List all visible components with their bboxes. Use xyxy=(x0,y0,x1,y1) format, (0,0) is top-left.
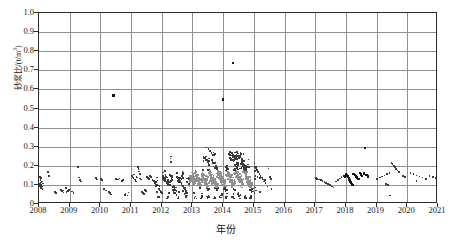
data-point xyxy=(157,196,159,198)
data-point xyxy=(208,196,210,198)
y-axis-tick-label: 0.2 xyxy=(23,161,34,170)
data-point xyxy=(47,171,49,173)
data-point xyxy=(267,186,269,188)
data-point xyxy=(216,168,218,170)
data-point xyxy=(226,189,228,191)
data-point xyxy=(208,165,210,167)
gridline-vertical xyxy=(223,13,224,202)
data-point xyxy=(240,194,242,196)
data-point xyxy=(256,169,258,171)
data-point xyxy=(213,178,215,180)
data-point xyxy=(216,183,218,185)
data-point xyxy=(175,187,177,189)
data-point xyxy=(222,98,224,100)
data-point xyxy=(416,175,418,177)
data-point xyxy=(196,174,198,176)
y-axis-title-exponent: 3 xyxy=(12,48,18,51)
data-point xyxy=(333,187,335,189)
y-axis-title-main: 砂浆比/(t/m xyxy=(14,51,23,91)
y-axis-tick-label: 0.4 xyxy=(23,123,34,132)
data-point xyxy=(243,153,245,155)
data-point xyxy=(96,179,98,181)
data-point xyxy=(212,154,214,156)
data-point xyxy=(416,180,418,182)
data-point xyxy=(206,179,208,181)
y-axis-tick-label: 0.1 xyxy=(23,180,34,189)
data-point xyxy=(234,165,236,167)
data-point xyxy=(201,185,203,187)
data-point xyxy=(202,169,204,171)
data-point xyxy=(233,193,235,195)
data-point xyxy=(166,198,168,200)
x-axis-tick-label: 2014 xyxy=(207,206,237,215)
data-point xyxy=(119,178,121,180)
data-point xyxy=(221,194,223,196)
data-point xyxy=(169,184,171,186)
data-point xyxy=(234,179,236,181)
data-point xyxy=(254,170,256,172)
x-axis-tick-label: 2021 xyxy=(422,206,451,215)
data-point xyxy=(241,167,243,169)
data-point xyxy=(398,171,400,173)
data-point xyxy=(185,195,187,197)
x-axis-tick-label: 2019 xyxy=(361,206,391,215)
data-point xyxy=(200,198,202,200)
data-point xyxy=(180,182,182,184)
data-point xyxy=(184,193,186,195)
data-point xyxy=(194,197,196,199)
data-point xyxy=(203,156,205,158)
data-point xyxy=(251,191,253,193)
data-point xyxy=(238,157,240,159)
gridline-vertical xyxy=(254,13,255,202)
data-point xyxy=(232,156,234,158)
y-axis-tick xyxy=(34,146,38,147)
data-point xyxy=(135,181,137,183)
data-point xyxy=(410,172,412,174)
data-point xyxy=(211,159,213,161)
data-point xyxy=(226,169,228,171)
y-axis-tick-label: 0.3 xyxy=(23,142,34,151)
data-point xyxy=(239,168,241,170)
x-axis-tick-label: 2008 xyxy=(23,206,53,215)
data-point xyxy=(257,176,259,178)
data-point xyxy=(389,195,391,197)
y-axis-tick-label: 0.5 xyxy=(23,104,34,113)
data-point xyxy=(225,190,227,192)
data-point xyxy=(245,170,247,172)
data-point xyxy=(225,198,227,200)
data-point xyxy=(224,181,226,183)
data-point xyxy=(386,173,388,175)
gridline-vertical xyxy=(70,13,71,202)
data-point xyxy=(133,174,135,176)
data-point xyxy=(246,171,248,173)
data-point xyxy=(216,189,218,191)
data-point xyxy=(244,160,246,162)
data-point xyxy=(177,177,179,179)
data-point xyxy=(254,178,256,180)
data-point xyxy=(214,162,216,164)
data-point xyxy=(237,166,239,168)
data-point xyxy=(156,191,158,193)
data-point xyxy=(231,177,233,179)
data-point xyxy=(39,176,41,178)
data-point xyxy=(251,184,253,186)
gridline-vertical xyxy=(131,13,132,202)
data-point xyxy=(413,173,415,175)
data-point xyxy=(244,198,246,200)
data-point xyxy=(367,175,369,177)
x-axis-tick-label: 2009 xyxy=(54,206,84,215)
data-point xyxy=(254,192,256,194)
data-point xyxy=(404,176,406,178)
data-point xyxy=(208,188,210,190)
data-point xyxy=(245,168,247,170)
data-point xyxy=(232,62,234,64)
gridline-vertical xyxy=(315,13,316,202)
data-point xyxy=(170,161,172,163)
data-point xyxy=(214,198,216,200)
data-point xyxy=(241,160,243,162)
data-point xyxy=(268,168,270,170)
data-point xyxy=(41,186,43,188)
data-point xyxy=(248,166,250,168)
data-point xyxy=(202,173,204,175)
data-point xyxy=(339,178,341,180)
